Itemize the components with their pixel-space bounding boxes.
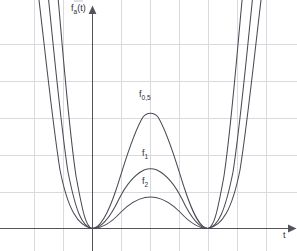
vertical-gridlines [35,0,267,251]
horizontal-gridlines [0,45,297,193]
axes [0,6,297,251]
curve-label-f1: f1 [142,149,148,160]
x-axis-arrowhead [288,225,297,233]
curve-label-f05: f0,5 [139,90,151,101]
x-axis-label: t [283,231,286,240]
curve-label-f05-subscript: 0,5 [142,94,151,101]
plot-canvas [0,0,297,251]
curve-label-f2: f2 [142,177,148,188]
curve-label-f2-subscript: 2 [145,181,149,188]
curve-label-f1-subscript: 1 [145,153,149,160]
y-axis-arrowhead [89,6,97,15]
y-axis-label: fa(t) [71,4,86,15]
y-axis-label-tail: (t) [77,3,86,13]
function-plot-figure: fa(t) t f0,5 f1 f2 [0,0,297,251]
